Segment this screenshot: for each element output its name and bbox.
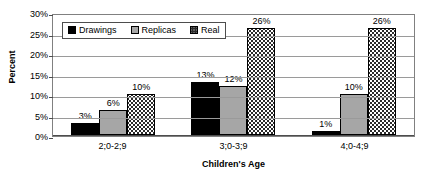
- y-axis-tickmark: [49, 36, 53, 37]
- y-axis-tick-label: 10%: [18, 92, 48, 101]
- legend-item[interactable]: Real: [190, 25, 220, 35]
- gridline: [53, 56, 414, 57]
- legend-swatch-icon: [190, 26, 198, 34]
- x-axis-tick-label: 4;0-4;9: [294, 141, 415, 151]
- y-axis-tick-label: 0%: [18, 133, 48, 142]
- gridline: [53, 97, 414, 98]
- bar[interactable]: [99, 110, 127, 135]
- x-axis-tick-label: 2;0-2;9: [52, 141, 173, 151]
- bar-value-label: 6%: [107, 99, 120, 108]
- legend-item[interactable]: Replicas: [131, 25, 177, 35]
- legend-label: Real: [201, 25, 220, 35]
- y-axis-tickmark: [49, 56, 53, 57]
- bar[interactable]: [71, 123, 99, 135]
- legend-label: Replicas: [142, 25, 177, 35]
- x-axis-title: Children's Age: [52, 159, 415, 169]
- y-axis-title: Percent: [7, 37, 17, 97]
- y-axis-tickmark: [49, 77, 53, 78]
- y-axis-tick-label: 5%: [18, 112, 48, 121]
- x-axis-tick-label: 3;0-3;9: [173, 141, 294, 151]
- bar[interactable]: [340, 94, 368, 135]
- y-axis-tickmark: [49, 97, 53, 98]
- bar[interactable]: [219, 86, 247, 135]
- y-axis-tick-label: 15%: [18, 71, 48, 80]
- y-axis-tick-labels: 0%5%10%15%20%25%30%: [18, 14, 48, 138]
- bar-value-label: 26%: [252, 17, 270, 26]
- chart-legend: DrawingsReplicasReal: [62, 22, 226, 39]
- bar-chart: Percent 0%5%10%15%20%25%30% 3%6%10%13%12…: [0, 0, 430, 182]
- gridline: [53, 118, 414, 119]
- bar-value-label: 10%: [132, 83, 150, 92]
- legend-swatch-icon: [131, 26, 139, 34]
- legend-item[interactable]: Drawings: [68, 25, 117, 35]
- bar-value-label: 13%: [196, 71, 214, 80]
- y-axis-tick-label: 25%: [18, 30, 48, 39]
- bar-value-label: 26%: [373, 17, 391, 26]
- bar[interactable]: [191, 82, 219, 135]
- bar-value-label: 1%: [319, 120, 332, 129]
- bar[interactable]: [247, 28, 275, 135]
- bar-value-label: 3%: [79, 112, 92, 121]
- y-axis-tick-label: 20%: [18, 51, 48, 60]
- x-axis-tick-labels: 2;0-2;93;0-3;94;0-4;9: [52, 141, 415, 151]
- bar-value-label: 10%: [345, 83, 363, 92]
- y-axis-tickmark: [49, 138, 53, 139]
- y-axis-tickmark: [49, 15, 53, 16]
- bar[interactable]: [127, 94, 155, 135]
- legend-swatch-icon: [68, 26, 76, 34]
- axis-baseline: [53, 135, 414, 136]
- y-axis-tickmark: [49, 118, 53, 119]
- legend-label: Drawings: [79, 25, 117, 35]
- y-axis-tick-label: 30%: [18, 10, 48, 19]
- bar[interactable]: [368, 28, 396, 135]
- gridline: [53, 77, 414, 78]
